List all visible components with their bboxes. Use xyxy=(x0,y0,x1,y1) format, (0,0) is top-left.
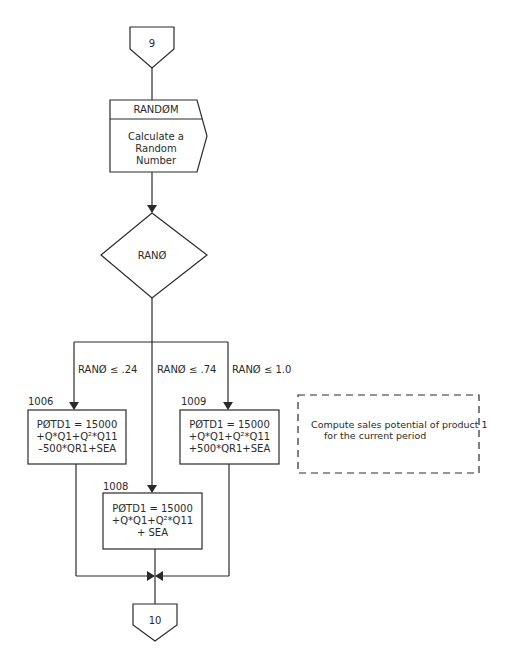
subroutine-body-line: Number xyxy=(110,155,202,167)
connector-end-label: 10 xyxy=(133,615,177,627)
branch-condition-1: RANØ ≤ .24 xyxy=(78,364,137,376)
decision-label: RANØ xyxy=(122,250,182,262)
formula-line: –500*QR1+SEA xyxy=(28,443,126,455)
annotation-text-line-2: for the current period xyxy=(324,430,426,442)
formula-line: PØTD1 = 15000 xyxy=(28,419,126,431)
connector-start-label: 9 xyxy=(130,38,174,50)
formula-line: PØTD1 = 15000 xyxy=(180,419,279,431)
subroutine-body: Calculate a Random Number xyxy=(110,131,202,167)
formula-line: +500*QR1+SEA xyxy=(180,443,279,455)
subroutine-title: RANDØM xyxy=(110,104,202,116)
branch-condition-3: RANØ ≤ 1.0 xyxy=(232,364,291,376)
process-box-1006-text: PØTD1 = 15000 +Q*Q1+Q²*Q11 –500*QR1+SEA xyxy=(28,419,126,455)
flowchart-canvas xyxy=(0,0,510,667)
subroutine-body-line: Calculate a xyxy=(110,131,202,143)
formula-line: +Q*Q1+Q²*Q11 xyxy=(103,515,202,527)
formula-line: +Q*Q1+Q²*Q11 xyxy=(180,431,279,443)
formula-line: +Q*Q1+Q²*Q11 xyxy=(28,431,126,443)
branch-condition-2: RANØ ≤ .74 xyxy=(157,364,216,376)
formula-line: + SEA xyxy=(103,527,202,539)
process-box-1009-text: PØTD1 = 15000 +Q*Q1+Q²*Q11 +500*QR1+SEA xyxy=(180,419,279,455)
formula-line: PØTD1 = 15000 xyxy=(103,503,202,515)
subroutine-body-line: Random xyxy=(110,143,202,155)
process-box-1008-text: PØTD1 = 15000 +Q*Q1+Q²*Q11 + SEA xyxy=(103,503,202,539)
box-id-1006: 1006 xyxy=(28,396,53,408)
box-id-1009: 1009 xyxy=(181,396,206,408)
box-id-1008: 1008 xyxy=(103,481,128,493)
